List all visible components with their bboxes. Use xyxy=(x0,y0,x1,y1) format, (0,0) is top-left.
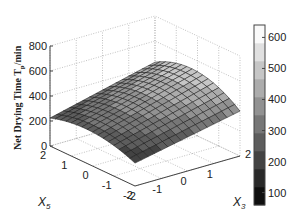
x3-axis-line xyxy=(135,156,240,186)
surface xyxy=(50,62,240,163)
x5-tick-label: 2 xyxy=(40,149,46,161)
colorbar-tick-label: 200 xyxy=(268,156,286,168)
colorbar-tick-label: 400 xyxy=(268,93,286,105)
colorbar-segment xyxy=(254,61,265,79)
colorbar-segment xyxy=(254,187,265,205)
colorbar-tick-label: 500 xyxy=(268,62,286,74)
surface-plot: 0200400600800-2-1012-2-1012 100200300400… xyxy=(0,0,301,220)
z-tick-label: 800 xyxy=(29,40,47,52)
x3-tick-label: 1 xyxy=(207,168,213,180)
colorbar-segment xyxy=(254,133,265,151)
colorbar-segment xyxy=(254,43,265,61)
z-tick-label: 200 xyxy=(29,115,47,127)
z-tick-label: 600 xyxy=(29,65,47,77)
colorbar-tick-label: 100 xyxy=(268,187,286,199)
colorbar-segment xyxy=(254,25,265,43)
x-axis-label: X3 xyxy=(232,195,246,211)
z-gridline xyxy=(50,16,240,56)
x5-tick-label: -1 xyxy=(102,179,112,191)
x5-tick-label: 0 xyxy=(82,169,88,181)
x3-tick-label: -1 xyxy=(152,183,162,195)
z-axis-label: Net Drying Time Tp/min xyxy=(12,45,26,150)
colorbar: 100200300400500600 xyxy=(254,25,286,205)
y-axis-label: X5 xyxy=(37,195,51,211)
colorbar-segment xyxy=(254,169,265,187)
colorbar-segment xyxy=(254,79,265,97)
x5-tick-label: 1 xyxy=(61,159,67,171)
colorbar-tick-label: 300 xyxy=(268,125,286,137)
x3-tick-label: -2 xyxy=(126,190,136,202)
colorbar-segment xyxy=(254,151,265,169)
x3-tick-label: 0 xyxy=(180,175,186,187)
z-tick-label: 400 xyxy=(29,90,47,102)
x3-tick-label: 2 xyxy=(245,148,251,160)
colorbar-tick-label: 600 xyxy=(268,31,286,43)
